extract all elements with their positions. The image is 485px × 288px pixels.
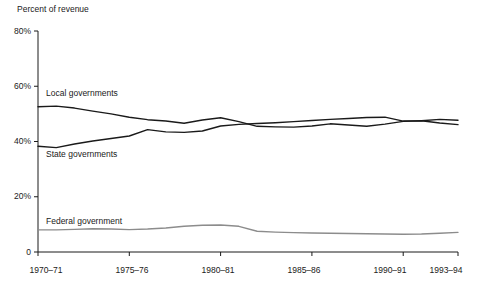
series-lines bbox=[38, 106, 458, 234]
axis-lines bbox=[38, 31, 458, 252]
y-axis-ticks bbox=[34, 31, 38, 252]
series-line-state-governments bbox=[38, 117, 458, 147]
plot-area bbox=[0, 0, 485, 288]
chart-container: Percent of revenue 80% 60% 40% 20% 0 197… bbox=[0, 0, 485, 288]
series-line-federal-government bbox=[38, 225, 458, 234]
x-axis-ticks bbox=[38, 252, 458, 256]
